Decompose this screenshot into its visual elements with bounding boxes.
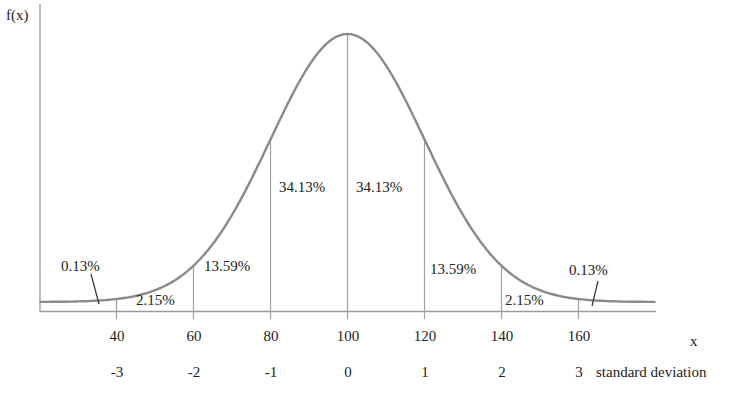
sd-tick-neg3: -3 [111,365,124,380]
percent-label-right-2: 2.15% [505,293,544,308]
sd-tick-neg1: -1 [265,365,278,380]
leader-line-left [91,274,99,304]
percent-label-left-tail: 0.13% [61,259,100,274]
sd-tick-1: 1 [421,365,429,380]
y-axis-label: f(x) [6,8,29,23]
sd-axis-label: standard deviation [596,365,706,380]
sd-tick-2: 2 [498,365,506,380]
percent-label-right-0: 34.13% [356,180,402,195]
x-tick-80: 80 [264,329,279,344]
sd-tick-neg2: -2 [188,365,201,380]
percent-label-left-0: 34.13% [279,180,325,195]
sigma-lines [117,34,579,319]
percent-label-left-1: 13.59% [204,259,250,274]
x-tick-140: 140 [491,329,514,344]
percent-label-left-2: 2.15% [136,293,175,308]
percent-label-right-tail: 0.13% [569,263,608,278]
percent-label-right-1: 13.59% [430,262,476,277]
x-tick-60: 60 [187,329,202,344]
sd-tick-3: 3 [575,365,583,380]
x-tick-160: 160 [568,329,591,344]
leader-line-right [592,281,598,306]
x-tick-120: 120 [414,329,437,344]
sd-tick-0: 0 [344,365,352,380]
x-tick-40: 40 [110,329,125,344]
x-axis-label: x [690,334,698,349]
x-tick-100: 100 [337,329,360,344]
